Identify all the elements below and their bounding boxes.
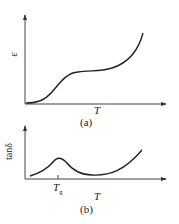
figure-a-y-label: ε (8, 52, 19, 57)
figure-b-caption: (b) (80, 204, 93, 215)
figure-a-x-label: T (94, 105, 100, 116)
figure-b-y-label: tanδ (3, 143, 14, 160)
figure-a-caption: (a) (80, 117, 92, 128)
tg-label: Tg (53, 182, 63, 198)
figure-b-axes (25, 126, 166, 179)
diagram-canvas (0, 0, 179, 224)
figure-b-x-label: T (94, 191, 100, 202)
figure-b-tandelta-curve (30, 150, 142, 176)
figure-a-axes (25, 15, 166, 104)
figure-a-epsilon-curve (26, 33, 143, 103)
